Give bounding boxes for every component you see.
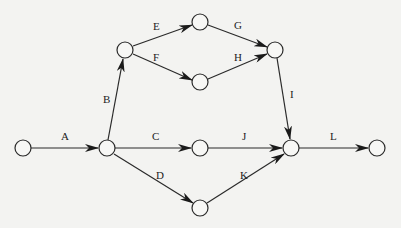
edge-g: G [208, 19, 267, 47]
edge-h: H [208, 51, 267, 79]
node-1 [15, 140, 31, 156]
edge-d: D [114, 154, 193, 203]
edge-a: A [31, 130, 98, 148]
node-5 [192, 74, 208, 90]
edge-c: C [115, 130, 191, 148]
edge-e: E [133, 20, 192, 46]
node-2 [99, 140, 115, 156]
node-9 [283, 140, 299, 156]
node-3 [117, 42, 133, 58]
edge-label-h: H [234, 51, 242, 63]
edge-label-i: I [290, 88, 294, 100]
edge-label-k: K [240, 169, 248, 181]
edge-label-f: F [153, 51, 159, 63]
network-diagram: A B C D E F G H I J [0, 0, 401, 228]
edge-label-e: E [153, 20, 160, 32]
edge-label-g: G [234, 19, 242, 31]
edge-label-j: J [242, 130, 247, 142]
edge-label-c: C [152, 130, 159, 142]
edge-label-a: A [61, 130, 69, 142]
edge-i: I [277, 58, 294, 139]
node-8 [192, 200, 208, 216]
edge-k: K [207, 154, 284, 203]
edge-label-d: D [156, 169, 164, 181]
edge-b: B [103, 59, 123, 140]
edge-label-l: L [330, 130, 337, 142]
edge-f: F [133, 51, 192, 80]
edge-j: J [208, 130, 282, 148]
edge-label-b: B [103, 93, 110, 105]
node-6 [267, 42, 283, 58]
edge-l: L [299, 130, 368, 148]
node-7 [192, 140, 208, 156]
node-4 [192, 14, 208, 30]
node-10 [369, 140, 385, 156]
